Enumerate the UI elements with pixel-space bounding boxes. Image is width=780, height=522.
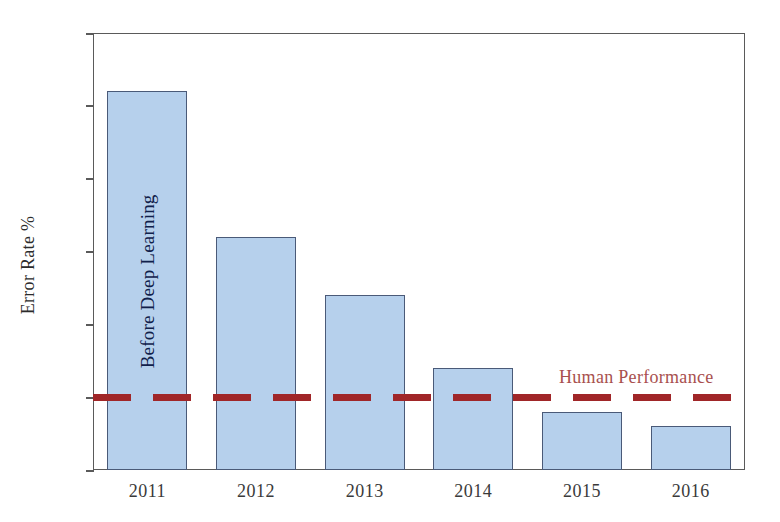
bar-2016[interactable] [651,426,731,470]
human-performance-line [93,394,745,401]
y-tick-mark-10 [86,324,94,326]
plot-area [93,33,745,470]
bar-2014[interactable] [433,368,513,470]
y-tick-mark-25 [86,105,94,107]
y-tick-mark-15 [86,251,94,253]
x-tick-label-2016: 2016 [631,481,751,502]
bar-2015[interactable] [542,412,622,470]
x-tick-label-2013: 2013 [305,481,425,502]
x-tick-label-2014: 2014 [413,481,533,502]
human-performance-label: Human Performance [559,367,714,388]
y-tick-mark-30 [86,33,94,35]
x-tick-label-2015: 2015 [522,481,642,502]
y-tick-mark-20 [86,178,94,180]
x-tick-label-2012: 2012 [196,481,316,502]
y-tick-mark-0 [86,470,94,472]
y-axis-title: Error Rate % [13,115,43,415]
bar-annotation-before-deep-learning: Before Deep Learning [108,92,188,471]
bar-2012[interactable] [216,237,296,470]
bar-2013[interactable] [325,295,405,470]
chart-canvas: Error Rate % 30 25 20 15 10 5 0 Before D… [0,0,780,522]
bar-2011[interactable]: Before Deep Learning [107,91,187,470]
x-tick-label-2011: 2011 [87,481,207,502]
